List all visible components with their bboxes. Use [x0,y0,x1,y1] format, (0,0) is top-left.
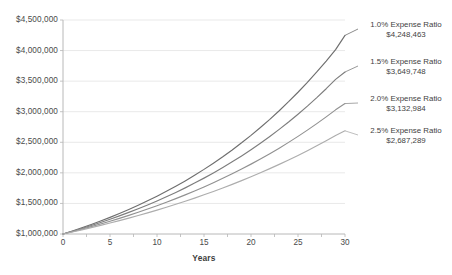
annotation-leader-line [345,29,358,35]
series-ratio-label: 2.0% Expense Ratio [360,94,452,104]
gridlines [63,20,345,203]
series-annotation: 2.0% Expense Ratio$3,132,984 [360,94,452,115]
annotation-leader-lines [345,29,358,135]
annotation-leader-line [345,131,358,135]
expense-ratio-growth-chart: $4,500,000$4,000,000$3,500,000$3,000,000… [0,0,452,275]
series-ratio-label: 2.5% Expense Ratio [360,126,452,136]
series-value-label: $4,248,463 [360,30,452,40]
x-axis-title: Years [63,253,345,263]
series-line [63,131,345,234]
series-annotation: 2.5% Expense Ratio$2,687,289 [360,126,452,147]
series-line [63,35,345,234]
series-value-label: $3,132,984 [360,104,452,114]
series-value-label: $3,649,748 [360,67,452,77]
annotation-leader-line [345,66,358,72]
series-annotation: 1.0% Expense Ratio$4,248,463 [360,20,452,41]
series-ratio-label: 1.0% Expense Ratio [360,20,452,30]
series-value-label: $2,687,289 [360,136,452,146]
series-annotation: 1.5% Expense Ratio$3,649,748 [360,57,452,78]
annotation-leader-line [345,103,358,104]
series-lines [63,35,345,234]
x-tick-marks [60,20,345,237]
series-ratio-label: 1.5% Expense Ratio [360,57,452,67]
